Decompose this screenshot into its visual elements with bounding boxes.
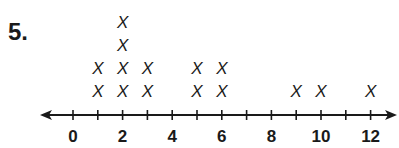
data-x-mark: X: [91, 59, 104, 78]
tick-label: 2: [118, 127, 127, 146]
tick-label: 6: [217, 127, 226, 146]
data-x-mark: X: [116, 36, 129, 55]
data-x-mark: X: [190, 82, 203, 101]
data-x-mark: X: [215, 59, 228, 78]
data-x-mark: X: [215, 82, 228, 101]
line-plot-problem: 5. 024681012XXXXXXXXXXXXXXX: [0, 0, 399, 148]
data-x-mark: X: [190, 59, 203, 78]
tick-label: 8: [267, 127, 276, 146]
data-x-mark: X: [141, 59, 154, 78]
data-x-mark: X: [91, 82, 104, 101]
data-x-mark: X: [141, 82, 154, 101]
tick-label: 0: [68, 127, 77, 146]
tick-label: 10: [312, 127, 331, 146]
tick-label: 12: [361, 127, 380, 146]
data-x-mark: X: [116, 82, 129, 101]
data-x-mark: X: [314, 82, 327, 101]
data-x-mark: X: [116, 13, 129, 32]
data-x-mark: X: [364, 82, 377, 101]
data-x-mark: X: [116, 59, 129, 78]
line-plot: 024681012XXXXXXXXXXXXXXX: [0, 0, 399, 148]
data-x-mark: X: [290, 82, 303, 101]
tick-label: 4: [167, 127, 177, 146]
